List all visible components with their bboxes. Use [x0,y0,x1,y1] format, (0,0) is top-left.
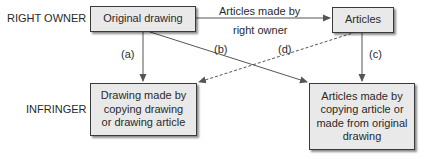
edge-label-c: (c) [369,48,382,60]
node-infringing-articles: Articles made by copying article or made… [309,83,415,150]
node-infringing-drawing-line: or drawing article [101,116,187,130]
row-label-right-owner: RIGHT OWNER [7,12,86,24]
node-infringing-drawing-line: copying drawing [101,103,187,117]
node-infringing-articles-line: made from original [316,117,407,131]
node-infringing-articles-line: drawing [316,130,407,144]
edge-label-made-by-2: right owner [233,24,287,36]
row-label-infringer: INFRINGER [26,103,87,115]
edge-label-d: (d) [278,43,291,55]
arrow-d [199,32,356,82]
edge-label-a: (a) [121,48,134,60]
node-original-drawing-label: Original drawing [103,12,182,26]
node-infringing-drawing: Drawing made by copying drawing or drawi… [90,83,197,136]
node-original-drawing: Original drawing [90,6,196,32]
node-articles: Articles [332,7,394,33]
node-infringing-articles-line: Articles made by [316,90,407,104]
node-infringing-drawing-line: Drawing made by [101,89,187,103]
arrow-b [147,31,307,82]
edge-label-b: (b) [214,43,227,55]
node-infringing-articles-line: copying article or [316,103,407,117]
edge-label-made-by-1: Articles made by [219,5,300,17]
node-articles-label: Articles [345,13,381,27]
